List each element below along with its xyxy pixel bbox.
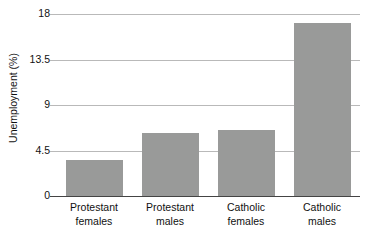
y-tick: 9 [0,99,50,111]
x-axis-label-line2: males [284,215,360,229]
x-axis-label: Catholicfemales [208,201,284,228]
y-tick-label: 0 [4,190,50,201]
x-axis-label-line1: Catholic [284,201,360,215]
y-tick: 0 [0,190,50,202]
bar [294,23,351,196]
x-axis-line [50,196,360,197]
x-axis-label: Catholicmales [284,201,360,228]
y-tick-label: 13.5 [4,54,50,65]
y-tick: 13.5 [0,54,50,66]
y-tick: 18 [0,8,50,20]
x-axis-label-line1: Protestant [132,201,208,215]
x-axis-label-line1: Protestant [56,201,132,215]
x-axis-label-line1: Catholic [208,201,284,215]
y-tick-label: 9 [4,99,50,110]
x-axis-label-line2: males [132,215,208,229]
x-axis-label: Protestantfemales [56,201,132,228]
y-tick-label: 4.5 [4,145,50,156]
plot-area [56,14,360,196]
bar-chart: Unemployment (%) 04.5913.518 Protestantf… [0,0,368,246]
bar [218,130,275,196]
gridline [56,14,360,15]
x-axis-label-line2: females [56,215,132,229]
x-axis-label: Protestantmales [132,201,208,228]
bar [66,160,123,196]
y-tick-label: 18 [4,8,50,19]
x-axis-category-labels: ProtestantfemalesProtestantmalesCatholic… [56,199,360,243]
y-axis-title: Unemployment (%) [4,0,22,196]
x-axis-label-line2: females [208,215,284,229]
bar [142,133,199,196]
y-tick: 4.5 [0,145,50,157]
